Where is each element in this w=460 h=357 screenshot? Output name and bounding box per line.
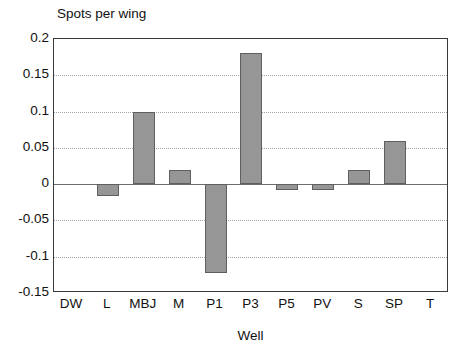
chart-title: Spots per wing [57,6,146,22]
bar-slot [198,39,234,291]
bar-slot [234,39,270,291]
bar[interactable] [384,141,406,185]
bar-slot [413,39,448,291]
x-tick-label: P3 [242,296,259,312]
bars-layer [54,39,447,291]
bar-chart-figure: Spots per wing 0.20.150.10.050-0.05-0.1-… [0,0,460,357]
bar[interactable] [169,170,191,184]
y-tick-label: -0.15 [1,285,49,299]
x-tick-label: PV [313,296,331,312]
bar[interactable] [276,184,298,190]
x-tick-label: T [426,296,434,312]
x-axis-title: Well [53,328,448,344]
bar[interactable] [312,184,334,190]
plot-area [53,38,448,292]
bar-slot [126,39,162,291]
bar-slot [269,39,305,291]
bar[interactable] [348,170,370,184]
bar-slot [341,39,377,291]
bar[interactable] [133,112,155,185]
x-tick-label: SP [385,296,403,312]
bar-slot [305,39,341,291]
x-tick-label: M [173,296,184,312]
y-tick-label: 0 [1,176,49,190]
x-tick-label: MBJ [129,296,156,312]
x-tick-label: P5 [278,296,295,312]
x-axis: DWLMBJMP1P3P5PVSSPT [53,296,448,316]
y-tick-label: 0.1 [1,104,49,118]
x-tick-label: L [103,296,111,312]
bar[interactable] [205,184,227,273]
y-tick-label: -0.05 [1,213,49,227]
bar-slot [162,39,198,291]
y-tick-label: 0.15 [1,68,49,82]
bar[interactable] [97,184,119,196]
x-tick-label: DW [60,296,83,312]
bar[interactable] [240,53,262,184]
y-tick-label: -0.1 [1,249,49,263]
x-tick-label: S [354,296,363,312]
y-tick-label: 0.2 [1,31,49,45]
y-axis: 0.20.150.10.050-0.05-0.1-0.15 [0,38,49,292]
bar-slot [377,39,413,291]
x-tick-label: P1 [206,296,223,312]
y-tick-label: 0.05 [1,140,49,154]
bar-slot [54,39,90,291]
bar-slot [90,39,126,291]
